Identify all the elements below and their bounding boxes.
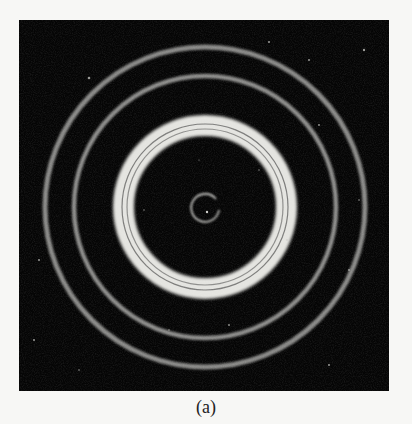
diffraction-pattern-image: [19, 20, 389, 391]
diffraction-rings: [19, 20, 389, 391]
grain-overlay: [19, 20, 389, 391]
figure-caption: (a): [0, 397, 412, 418]
